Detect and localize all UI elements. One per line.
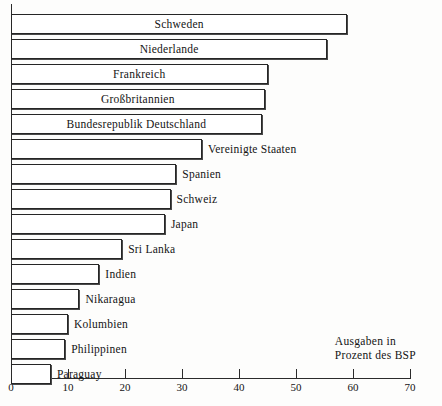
bar-nikaragua <box>11 289 79 309</box>
bar-indien <box>11 264 99 284</box>
tick-mark <box>410 369 411 378</box>
bar-label: Schweden <box>11 14 347 34</box>
tick-label: 40 <box>224 381 254 394</box>
bar-chart: SchwedenNiederlandeFrankreichGroßbritann… <box>0 0 442 406</box>
bar-label: Niederlande <box>11 39 327 59</box>
axis-note-line-1: Ausgaben in <box>335 334 416 348</box>
bar-label: Sri Lanka <box>128 239 175 259</box>
plot-area: SchwedenNiederlandeFrankreichGroßbritann… <box>0 0 442 380</box>
tick-mark <box>296 369 297 378</box>
axis-note: Ausgaben in Prozent des BSP <box>335 334 416 362</box>
bar-label: Großbritannien <box>11 89 265 109</box>
bar-japan <box>11 214 165 234</box>
tick-mark <box>239 369 240 378</box>
tick-mark <box>182 369 183 378</box>
tick-label: 50 <box>281 381 311 394</box>
bar-label: Nikaragua <box>85 289 135 309</box>
bar-schweiz <box>11 189 171 209</box>
bar-vereinigte-staaten <box>11 139 202 159</box>
bar-label: Japan <box>171 214 198 234</box>
bar-kolumbien <box>11 314 68 334</box>
bar-label: Bundesrepublik Deutschland <box>11 114 262 134</box>
bar-label: Schweiz <box>177 189 218 209</box>
tick-label: 20 <box>110 381 140 394</box>
bar-label: Spanien <box>182 164 221 184</box>
tick-mark <box>68 369 69 378</box>
bar-label: Philippinen <box>71 339 127 359</box>
bar-label: Frankreich <box>11 64 268 84</box>
tick-label: 0 <box>0 381 26 394</box>
bar-label: Kolumbien <box>74 314 128 334</box>
tick-mark <box>353 369 354 378</box>
tick-label: 60 <box>338 381 368 394</box>
bar-spanien <box>11 164 176 184</box>
tick-mark <box>11 369 12 378</box>
bar-sri-lanka <box>11 239 122 259</box>
tick-mark <box>125 369 126 378</box>
bar-label: Vereinigte Staaten <box>208 139 296 159</box>
tick-label: 70 <box>395 381 425 394</box>
bar-label: Indien <box>105 264 136 284</box>
tick-label: 30 <box>167 381 197 394</box>
tick-label: 10 <box>53 381 83 394</box>
bar-philippinen <box>11 339 65 359</box>
axis-note-line-2: Prozent des BSP <box>335 348 416 362</box>
